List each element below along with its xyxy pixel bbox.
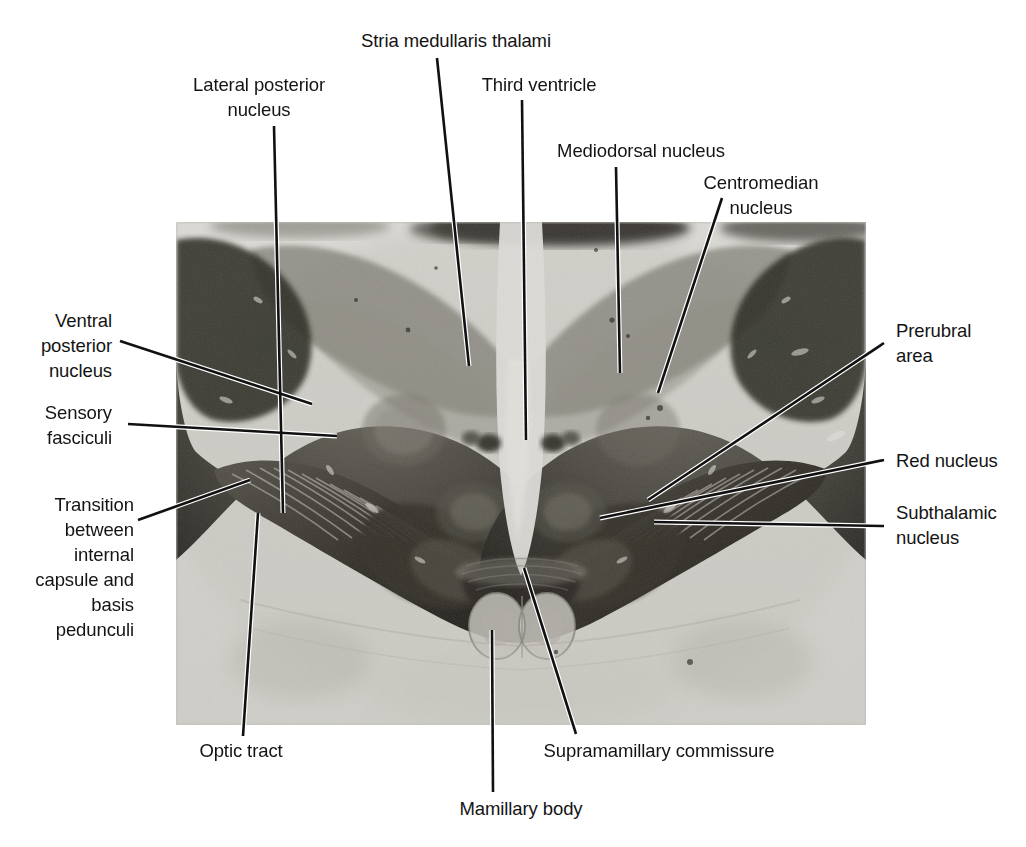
label-prerubral-area: Prerubral area xyxy=(896,318,1006,368)
label-red-nucleus: Red nucleus xyxy=(896,448,1016,473)
leader-line-highlight-stria-medullaris-thalami xyxy=(437,58,469,366)
leader-line-subthalamic-nucleus xyxy=(654,522,884,526)
labeled-anatomical-figure: Stria medullaris thalamiLateral posterio… xyxy=(0,0,1026,847)
leader-line-highlight-mamillary-body xyxy=(492,630,493,792)
leader-line-highlight-sensory-fasciculi xyxy=(128,424,337,436)
label-third-ventricle: Third ventricle xyxy=(474,72,604,97)
specimen-photomicrograph xyxy=(0,0,1026,847)
leader-line-mamillary-body xyxy=(492,630,493,792)
leader-line-prerubral-area xyxy=(648,343,884,500)
leader-line-highlight-centromedian-nucleus xyxy=(658,198,722,393)
label-mamillary-body: Mamillary body xyxy=(448,796,594,821)
leader-line-highlight-mediodorsal-nucleus xyxy=(616,167,620,373)
leader-line-optic-tract xyxy=(243,513,258,736)
leader-line-highlight-ventral-posterior-nucleus xyxy=(120,341,312,404)
leader-line-highlight-lateral-posterior-nucleus xyxy=(274,126,283,513)
label-mediodorsal-nucleus: Mediodorsal nucleus xyxy=(542,138,740,163)
leader-line-supramamillary-commissure xyxy=(524,568,576,734)
leader-line-highlight-subthalamic-nucleus xyxy=(654,522,884,526)
leader-line-stria-medullaris-thalami xyxy=(437,58,469,366)
leader-line-mediodorsal-nucleus xyxy=(616,167,620,373)
leader-line-lateral-posterior-nucleus xyxy=(274,126,283,513)
leader-line-sensory-fasciculi xyxy=(128,424,337,436)
leader-line-highlight-supramamillary-commissure xyxy=(524,568,576,734)
leader-line-red-nucleus xyxy=(600,460,884,518)
label-optic-tract: Optic tract xyxy=(186,738,296,763)
label-transition-internal-capsule-basis-pedunculi: Transition between internal capsule and … xyxy=(8,492,134,642)
label-centromedian-nucleus: Centromedian nucleus xyxy=(671,170,851,220)
label-sensory-fasciculi: Sensory fasciculi xyxy=(8,400,112,450)
label-supramamillary-commissure: Supramamillary commissure xyxy=(528,738,790,763)
label-subthalamic-nucleus: Subthalamic nucleus xyxy=(896,500,1020,550)
leader-line-ventral-posterior-nucleus xyxy=(120,341,312,404)
leader-line-transition-internal-capsule-basis-pedunculi xyxy=(138,480,250,520)
leader-line-highlight-prerubral-area xyxy=(648,343,884,500)
label-lateral-posterior-nucleus: Lateral posterior nucleus xyxy=(172,72,346,122)
leader-line-third-ventricle xyxy=(522,100,526,440)
leader-line-centromedian-nucleus xyxy=(658,198,722,393)
leader-line-highlight-red-nucleus xyxy=(600,460,884,518)
label-ventral-posterior-nucleus: Ventral posterior nucleus xyxy=(8,308,112,383)
leader-line-highlight-transition-internal-capsule-basis-pedunculi xyxy=(138,480,250,520)
label-stria-medullaris-thalami: Stria medullaris thalami xyxy=(348,28,564,53)
leader-line-highlight-third-ventricle xyxy=(522,100,526,440)
leader-line-highlight-optic-tract xyxy=(243,513,258,736)
